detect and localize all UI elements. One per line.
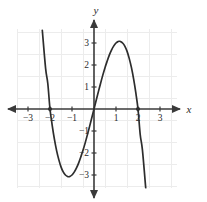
graph-canvas: −3−2−1123321−1−2−3 x y bbox=[0, 0, 207, 202]
x-tick-label: 3 bbox=[158, 113, 163, 123]
x-axis-label: x bbox=[186, 103, 192, 115]
x-tick-label: 1 bbox=[114, 113, 119, 123]
y-tick-label: 2 bbox=[84, 60, 89, 70]
x-tick-label: −3 bbox=[23, 113, 33, 123]
y-axis-label: y bbox=[93, 4, 99, 16]
figure-background bbox=[0, 0, 207, 202]
left-root-point bbox=[48, 107, 52, 111]
x-tick-label: −1 bbox=[67, 113, 77, 123]
coordinate-graph-figure: −3−2−1123321−1−2−3 x y bbox=[0, 0, 207, 202]
y-tick-label: 3 bbox=[84, 38, 89, 48]
y-tick-label: 1 bbox=[84, 82, 89, 92]
right-root-point bbox=[136, 107, 140, 111]
y-tick-label: −3 bbox=[79, 170, 89, 180]
